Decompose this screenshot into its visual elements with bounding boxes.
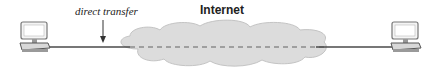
desktop-computer-icon (391, 22, 421, 52)
internet-label: Internet (200, 3, 244, 17)
desktop-computer-icon (20, 22, 50, 52)
diagram-canvas: direct transfer Internet (0, 0, 435, 74)
direct-transfer-label: direct transfer (75, 5, 139, 17)
internet-cloud (121, 20, 326, 66)
direct-transfer-arrow (100, 20, 106, 43)
